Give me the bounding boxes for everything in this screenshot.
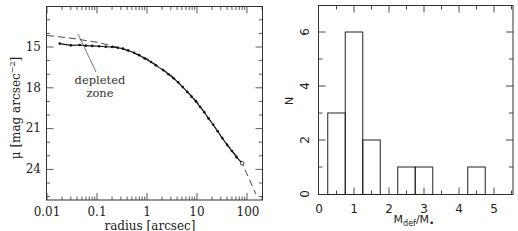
x-axis-title-denominator: /M bbox=[416, 213, 429, 226]
histogram-bar bbox=[328, 113, 346, 195]
data-point bbox=[122, 47, 125, 50]
x-tick-label: 0.1 bbox=[87, 205, 106, 219]
annotation-leader-line bbox=[78, 34, 96, 72]
data-point bbox=[226, 144, 229, 147]
histogram-bar bbox=[345, 32, 363, 195]
data-point bbox=[177, 81, 180, 84]
y-tick-label: 15 bbox=[26, 40, 41, 54]
y-tick-label: 0 bbox=[298, 190, 312, 198]
data-point bbox=[172, 77, 175, 80]
histogram-bar bbox=[398, 167, 416, 195]
data-point bbox=[240, 161, 244, 165]
mass-deficit-histogram-chart: 0 1 2 3 4 5 0 2 4 6 N Mdef/M• bbox=[270, 0, 518, 231]
histogram-svg: 0 1 2 3 4 5 0 2 4 6 N Mdef/M• bbox=[270, 0, 518, 231]
data-point bbox=[203, 111, 206, 114]
histogram-bar bbox=[363, 140, 381, 195]
svg-text:μ [mag arcsec−2]: μ [mag arcsec−2] bbox=[8, 57, 23, 159]
y-axis-title-main: μ [mag arcsec bbox=[9, 73, 23, 159]
x-axis-title: radius [arcsec] bbox=[104, 219, 195, 231]
y-tick-label: 2 bbox=[298, 136, 312, 144]
observed-profile-points bbox=[58, 42, 243, 165]
data-point bbox=[167, 73, 170, 76]
data-point bbox=[91, 45, 94, 48]
x-tick-label: 5 bbox=[490, 202, 498, 216]
data-point bbox=[133, 51, 136, 54]
y-tick-label: 21 bbox=[26, 121, 41, 135]
data-point bbox=[98, 45, 101, 48]
histogram-bar bbox=[468, 167, 486, 195]
sersic-fit-dashed-line bbox=[47, 35, 256, 193]
y-axis-title: μ [mag arcsec−2] bbox=[8, 57, 23, 159]
data-point bbox=[199, 106, 202, 109]
data-point bbox=[143, 57, 146, 60]
x-axis-title-main: M bbox=[394, 213, 404, 226]
data-point bbox=[127, 49, 130, 52]
data-point bbox=[216, 130, 219, 133]
data-point bbox=[116, 46, 119, 49]
x-tick-labels: 0 1 2 3 4 5 bbox=[315, 202, 498, 216]
data-point bbox=[235, 156, 238, 159]
x-axis-title: Mdef/M• bbox=[394, 213, 435, 228]
data-point bbox=[150, 61, 153, 64]
y-axis-title-bracket: ] bbox=[9, 57, 23, 62]
data-point bbox=[111, 46, 114, 49]
x-axis-title-subscript: def bbox=[403, 219, 416, 228]
data-point bbox=[207, 117, 210, 120]
annotation-depleted: depleted bbox=[75, 73, 126, 87]
x-tick-label: 2 bbox=[385, 202, 393, 216]
y-tick-label: 18 bbox=[26, 81, 41, 95]
data-point bbox=[138, 54, 141, 57]
sersic-fit-line bbox=[47, 35, 256, 193]
y-tick-label: 6 bbox=[298, 28, 312, 36]
data-point bbox=[212, 123, 215, 126]
surface-brightness-profile-chart: depleted zone 0.01 0.1 1 10 100 15 18 21… bbox=[0, 0, 270, 231]
data-point bbox=[105, 45, 108, 48]
x-tick-label: 100 bbox=[237, 205, 260, 219]
data-point bbox=[195, 100, 198, 103]
x-tick-label: 4 bbox=[455, 202, 463, 216]
y-axis-title: N bbox=[283, 97, 296, 105]
data-point bbox=[155, 64, 158, 67]
data-point bbox=[186, 91, 189, 94]
y-tick-labels: 0 2 4 6 bbox=[298, 28, 312, 198]
data-point bbox=[70, 44, 73, 47]
plot-frame bbox=[319, 6, 514, 195]
x-tick-label: 0 bbox=[315, 202, 323, 216]
x-tick-labels: 0.01 0.1 1 10 100 bbox=[34, 205, 260, 219]
y-tick-label: 4 bbox=[298, 82, 312, 90]
x-tick-label: 0.01 bbox=[34, 205, 61, 219]
data-point bbox=[162, 69, 165, 72]
data-point bbox=[231, 150, 234, 153]
data-point bbox=[85, 44, 88, 47]
y-tick-label: 24 bbox=[26, 162, 42, 176]
y-axis-title-superscript: −2 bbox=[8, 61, 17, 73]
annotation-zone: zone bbox=[86, 86, 113, 100]
data-point bbox=[221, 137, 224, 140]
y-tick-labels: 15 18 21 24 bbox=[26, 40, 42, 176]
data-point bbox=[190, 95, 193, 98]
data-point bbox=[58, 42, 61, 45]
histogram-bars bbox=[328, 32, 486, 195]
x-tick-label: 1 bbox=[350, 202, 358, 216]
data-point bbox=[182, 86, 185, 89]
profile-plot-svg: depleted zone 0.01 0.1 1 10 100 15 18 21… bbox=[0, 0, 270, 231]
axis-ticks bbox=[319, 6, 514, 195]
data-point bbox=[78, 44, 81, 47]
x-tick-label: 1 bbox=[143, 205, 151, 219]
x-tick-label: 10 bbox=[189, 205, 204, 219]
x-axis-title-subscript-bullet: • bbox=[429, 218, 434, 228]
